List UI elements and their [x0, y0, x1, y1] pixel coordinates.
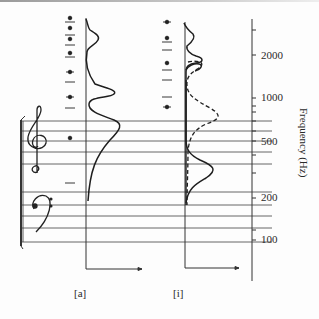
panel-i-solid-curve [184, 23, 213, 203]
tick-label-1000: 1000 [261, 91, 283, 103]
axis-title: Frequency (Hz) [298, 108, 310, 177]
panel-i-dashed-curve [187, 61, 218, 205]
spectrum-diagram [0, 0, 319, 319]
bass-clef-icon [33, 195, 52, 232]
staff-lines [21, 121, 272, 242]
panel-a-spectrum-curve [86, 19, 120, 201]
panel-label-i: [i] [173, 287, 183, 299]
treble-clef-icon [28, 106, 46, 172]
tick-label-200: 200 [261, 191, 278, 203]
panel-i-axes [185, 22, 239, 270]
tick-label-500: 500 [261, 135, 278, 147]
harmonic-markers-i [162, 20, 172, 109]
tick-label-2000: 2000 [261, 49, 283, 61]
staff-bracket [21, 116, 25, 249]
tick-label-100: 100 [261, 233, 278, 245]
panel-a-axes [86, 18, 142, 271]
harmonic-markers-a [65, 16, 75, 183]
panel-label-a: [a] [74, 287, 86, 299]
